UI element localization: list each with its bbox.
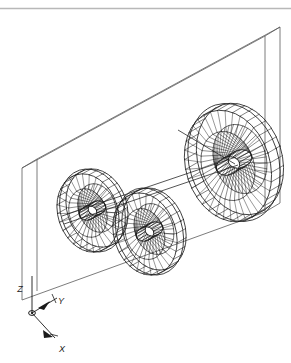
rim-strut: [192, 180, 206, 188]
tyre-band-segment: [57, 209, 66, 214]
rim-strut: [234, 201, 238, 222]
rim-strut: [132, 194, 137, 209]
spoked-wheel-left[interactable]: [47, 160, 138, 260]
x-axis-label: X: [58, 344, 66, 354]
z-axis-label: Z: [16, 284, 23, 294]
x-axis-tick: [50, 334, 58, 336]
tyre-band-segment: [268, 146, 280, 153]
rim-strut: [157, 257, 164, 271]
tyre-band-segment: [89, 170, 98, 175]
rim-strut: [63, 224, 73, 231]
rim-strut: [68, 228, 76, 237]
spoked-wheel-right-large[interactable]: [170, 91, 291, 233]
wheel-spoke: [213, 134, 239, 150]
rim-strut: [76, 175, 81, 189]
rim-strut: [149, 259, 151, 275]
wheel-assembly-group: [47, 91, 291, 284]
rim-strut: [247, 195, 258, 213]
rim-strut: [210, 112, 217, 133]
rim-strut: [153, 259, 158, 274]
wheel-spoke: [140, 204, 146, 229]
rim-strut: [99, 235, 106, 248]
ucs-axis-triad[interactable]: Z Y X: [16, 276, 66, 354]
rim-strut: [163, 224, 174, 228]
rim-strut: [96, 237, 101, 251]
spoked-wheel-middle[interactable]: [103, 179, 197, 284]
rim-strut: [218, 110, 222, 131]
tyre-band-segment: [270, 156, 282, 163]
tyre-band-segment: [124, 255, 133, 260]
tyre-band-segment: [204, 108, 216, 115]
rim-strut: [124, 250, 132, 260]
rim-strut: [244, 128, 254, 143]
tyre-band-segment: [252, 210, 264, 217]
rim-strut: [101, 188, 109, 197]
cad-3d-wireframe-viewport[interactable]: Z Y X: [0, 0, 291, 363]
rim-strut: [97, 182, 103, 194]
tyre-band-segment: [272, 165, 284, 172]
rim-strut: [243, 198, 252, 217]
rim-strut: [204, 115, 213, 134]
tyre-band-segment: [216, 209, 228, 216]
tyre-band-segment: [233, 106, 245, 113]
tyre-band-segment: [185, 143, 197, 150]
wireframe-drawing-canvas: Z Y X: [0, 0, 291, 363]
rim-strut: [184, 160, 201, 162]
tyre-band-segment: [240, 109, 252, 116]
rim-strut: [185, 150, 201, 156]
rim-strut: [163, 250, 174, 260]
tyre-band-segment: [87, 246, 96, 251]
tyre-band-segment: [96, 172, 105, 177]
tyre-band-segment: [68, 233, 77, 238]
tyre-band-segment: [254, 121, 266, 128]
wheel-spoke: [235, 173, 251, 193]
tyre-band-segment: [57, 200, 66, 205]
rim-strut: [103, 232, 112, 243]
slab-depth-edge-topleft: [22, 159, 37, 168]
wheel-spoke: [97, 212, 116, 218]
rim-strut: [225, 111, 226, 132]
rim-strut: [209, 194, 216, 211]
rim-strut: [82, 174, 84, 189]
wheel-spoke: [126, 223, 148, 225]
slab-top-back-edge: [37, 27, 280, 159]
tyre-band-segment: [108, 183, 117, 188]
tyre-band-segment: [223, 212, 235, 219]
rim-strut: [158, 208, 166, 218]
rim-strut: [154, 202, 160, 214]
tyre-band-segment: [80, 244, 89, 249]
wheel-spoke: [69, 203, 90, 204]
tyre-band-segment: [202, 197, 214, 204]
rim-strut: [70, 178, 77, 191]
tyre-band-segment: [177, 229, 186, 234]
rim-strut: [160, 254, 169, 266]
rim-strut: [105, 228, 115, 237]
tyre-band-segment: [146, 189, 155, 194]
rim-strut: [255, 170, 272, 172]
wheel-rim-circle: [72, 179, 123, 238]
tyre-band-segment: [174, 219, 183, 224]
rim-strut: [193, 126, 206, 141]
wheel-spoke: [225, 167, 233, 199]
ucs-origin-dot: [31, 312, 33, 314]
slab-depth-edge-topright: [265, 27, 280, 36]
wheel-spoke: [220, 174, 221, 178]
y-axis-label: Y: [58, 296, 65, 306]
rim-strut: [139, 193, 141, 209]
tyre-band-segment: [186, 162, 198, 169]
rim-strut: [202, 190, 212, 205]
wheel-spoke: [229, 128, 247, 157]
rim-strut: [57, 205, 69, 208]
rim-strut: [239, 200, 246, 221]
tyre-band-segment: [166, 203, 175, 208]
tyre-band-segment: [271, 175, 283, 182]
rim-strut: [223, 199, 225, 219]
rim-strut: [250, 191, 263, 206]
tyre-band-segment: [137, 266, 146, 271]
tyre-band-segment: [144, 269, 153, 274]
